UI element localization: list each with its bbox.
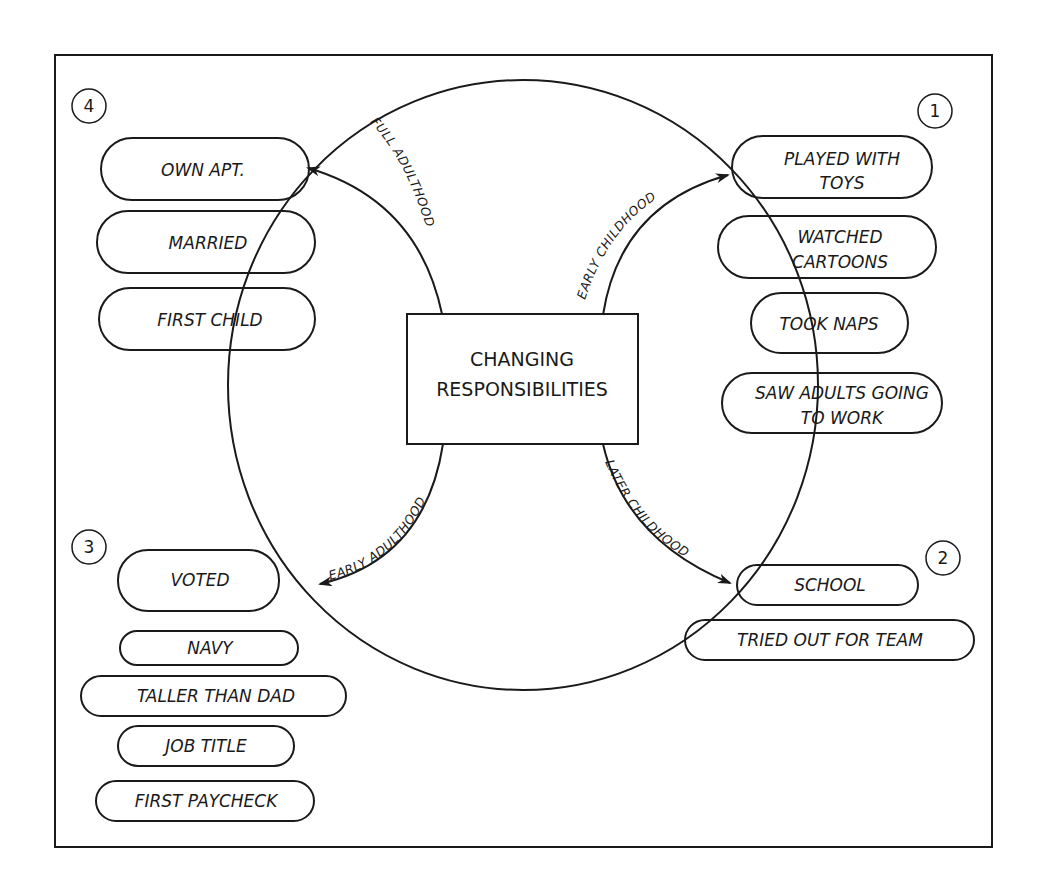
svg-text:PLAYED WITH: PLAYED WITH	[784, 149, 900, 169]
svg-text:TO WORK: TO WORK	[801, 408, 885, 428]
stage-number-badge-1: 1	[918, 94, 952, 128]
center-title-line1: CHANGING	[470, 348, 574, 370]
svg-text:FIRST CHILD: FIRST CHILD	[157, 310, 262, 330]
svg-text:JOB TITLE: JOB TITLE	[162, 736, 247, 756]
pill-played-with-toys: PLAYED WITH TOYS	[732, 136, 932, 198]
pill-watched-cartoons: WATCHED CARTOONS	[718, 216, 936, 278]
arrow-early-adulthood	[320, 444, 443, 584]
svg-text:OWN APT.: OWN APT.	[161, 160, 245, 180]
pill-saw-adults-going-to-work: SAW ADULTS GOING TO WORK	[722, 373, 942, 433]
stage-number-badge-2: 2	[926, 541, 960, 575]
pill-took-naps: TOOK NAPS	[751, 293, 908, 353]
center-box: CHANGING RESPONSIBILITIES	[407, 314, 638, 444]
pill-taller-than-dad: TALLER THAN DAD	[81, 676, 346, 716]
svg-text:TALLER THAN DAD: TALLER THAN DAD	[137, 686, 295, 706]
pill-school: SCHOOL	[737, 565, 918, 605]
svg-text:3: 3	[84, 537, 95, 557]
arrow-later-childhood	[603, 444, 730, 583]
pill-first-paycheck: FIRST PAYCHECK	[96, 781, 314, 821]
svg-text:FIRST PAYCHECK: FIRST PAYCHECK	[135, 791, 280, 811]
pill-first-child: FIRST CHILD	[99, 288, 315, 350]
svg-text:WATCHED: WATCHED	[797, 227, 882, 247]
pill-navy: NAVY	[120, 631, 298, 665]
svg-text:4: 4	[84, 96, 95, 116]
svg-text:2: 2	[938, 548, 949, 568]
stage-number-badge-3: 3	[72, 530, 106, 564]
arc-label-early-childhood: EARLY CHILDHOOD	[574, 188, 659, 301]
arc-label-full-adulthood: FULL ADULTHOOD	[368, 114, 438, 229]
arc-label-early-adulthood: EARLY ADULTHOOD	[327, 494, 429, 583]
arc-label-later-childhood: LATER CHILDHOOD	[602, 457, 692, 560]
pill-married: MARRIED	[97, 211, 315, 273]
pill-tried-out-for-team: TRIED OUT FOR TEAM	[685, 620, 974, 660]
arrow-early-childhood	[603, 175, 728, 315]
pill-job-title: JOB TITLE	[118, 726, 294, 766]
svg-text:VOTED: VOTED	[170, 570, 229, 590]
svg-text:NAVY: NAVY	[187, 638, 234, 658]
svg-text:CARTOONS: CARTOONS	[792, 252, 888, 272]
svg-text:SCHOOL: SCHOOL	[794, 575, 866, 595]
svg-text:MARRIED: MARRIED	[169, 233, 248, 253]
svg-text:TRIED OUT FOR TEAM: TRIED OUT FOR TEAM	[737, 630, 923, 650]
svg-text:TOYS: TOYS	[820, 173, 865, 193]
stage-number-badge-4: 4	[72, 89, 106, 123]
svg-text:1: 1	[930, 101, 941, 121]
pill-own-apt: OWN APT.	[101, 138, 309, 200]
changing-responsibilities-diagram: CHANGING RESPONSIBILITIES EARLY CHILDHOO…	[0, 0, 1038, 893]
svg-text:SAW ADULTS GOING: SAW ADULTS GOING	[755, 383, 929, 403]
center-title-line2: RESPONSIBILITIES	[436, 378, 608, 400]
pill-voted: VOTED	[118, 550, 279, 611]
svg-text:TOOK NAPS: TOOK NAPS	[779, 314, 878, 334]
